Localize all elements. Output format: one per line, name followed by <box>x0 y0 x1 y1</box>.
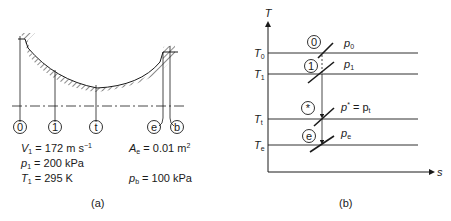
label-pe: pe <box>340 127 351 140</box>
svg-text:t: t <box>94 121 97 133</box>
svg-text:*: * <box>306 102 311 114</box>
label-tt: Tt <box>254 113 263 126</box>
s-axis-label: s <box>437 166 443 178</box>
t-axis-label: T <box>265 7 273 19</box>
label-t0: T0 <box>254 47 265 60</box>
given-t1: T1 = 295 K <box>21 172 74 185</box>
caption-a: (a) <box>91 197 104 209</box>
svg-text:e: e <box>151 121 157 133</box>
svg-text:1: 1 <box>308 60 314 72</box>
svg-text:0: 0 <box>17 121 23 133</box>
given-ae: Ae = 0.01 m2 <box>128 142 190 155</box>
nozzle-wall-hatch <box>20 33 175 92</box>
station-marker-0: 0 <box>14 121 27 134</box>
given-v1: V1 = 172 m s−1 <box>21 142 92 155</box>
label-te: Te <box>254 139 265 152</box>
station-marker-b: b <box>171 121 184 134</box>
svg-text:1: 1 <box>52 121 58 133</box>
svg-text:e: e <box>306 130 312 142</box>
isobar-p0 <box>318 43 333 58</box>
given-p1: p1 = 200 kPa <box>20 157 85 170</box>
station-marker-e: e <box>148 121 161 134</box>
label-p0: p0 <box>343 37 354 50</box>
label-p1: p1 <box>343 58 354 71</box>
state-marker-e: e <box>303 130 316 143</box>
given-pb: pb = 100 kPa <box>128 172 193 185</box>
station-marker-1: 1 <box>49 121 62 134</box>
state-marker-1: 1 <box>305 60 318 73</box>
station-marker-t: t <box>90 121 103 134</box>
nozzle-drawing <box>12 33 185 126</box>
label-t1: T1 <box>254 68 265 81</box>
caption-b: (b) <box>339 197 352 209</box>
state-marker-0: 0 <box>308 36 321 49</box>
label-pstar: p* = pt <box>340 101 371 114</box>
svg-text:0: 0 <box>311 36 317 48</box>
isobar-pstar <box>314 108 334 126</box>
diagram-canvas: 0 1 t e b V1 = 172 m s−1 p1 = 200 kPa T1… <box>0 0 451 221</box>
svg-text:b: b <box>174 121 180 133</box>
state-marker-star: * <box>302 102 315 115</box>
